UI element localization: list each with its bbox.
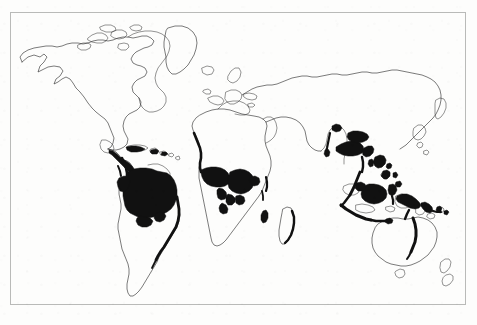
landmass-new-zealand: [440, 259, 453, 286]
landmass-australia: [372, 217, 437, 278]
landmass-canadian-arctic: [78, 25, 142, 50]
landmass-kamchatka-japan: [413, 98, 446, 155]
world-map-figure: [0, 0, 477, 325]
landmass-iceland: [202, 66, 214, 75]
world-map-graphic: [0, 0, 477, 325]
forest-region-philippines: [373, 155, 398, 179]
forest-region-queensland-australia: [405, 210, 416, 259]
forest-region-madagascar-east: [285, 211, 294, 243]
landmass-europe: [203, 68, 257, 107]
forest-region-indochina: [336, 131, 374, 172]
forest-region-borneo: [355, 182, 387, 204]
forest-region-new-guinea: [396, 194, 441, 213]
forest-region-sumatra-java: [341, 205, 393, 224]
landmass-north-america: [20, 31, 170, 150]
forest-region-east-africa: [261, 177, 268, 223]
